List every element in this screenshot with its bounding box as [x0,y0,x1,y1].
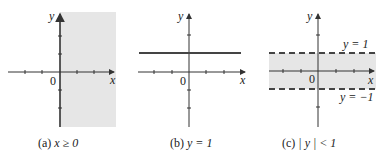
y-axis-label: y [306,9,313,23]
panel-a: y x 0 (a) x ≥ 0 [8,9,116,150]
panel-b: y x 0 (b) y = 1 [138,9,246,150]
origin-label: 0 [309,72,315,86]
caption-c: (c) | y | < 1 [282,136,336,150]
figure-canvas: y x 0 (a) x ≥ 0 y x 0 (b) y = 1 [0,0,384,155]
x-axis-label: x [239,73,246,87]
origin-label: 0 [50,74,56,88]
y-axis-label: y [48,9,55,23]
origin-label: 0 [180,74,186,88]
caption-a: (a) x ≥ 0 [38,136,78,150]
lower-boundary-label: y = −1 [339,90,374,104]
upper-boundary-label: y = 1 [342,37,368,51]
x-axis-label: x [367,73,374,87]
panel-c: y x 0 y = 1 y = −1 (c) | y | < 1 [269,9,376,150]
shaded-region-x-nonnegative [60,12,116,127]
caption-b: (b) y = 1 [170,136,212,150]
x-axis-label: x [109,73,116,87]
y-axis-label: y [177,9,184,23]
